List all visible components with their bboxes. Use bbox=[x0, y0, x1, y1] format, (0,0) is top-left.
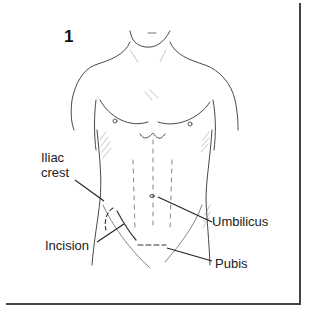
label-iliac-crest: Iliac crest bbox=[41, 150, 69, 180]
label-iliac-crest-line2: crest bbox=[41, 165, 69, 180]
leader-iliac-crest bbox=[75, 180, 104, 201]
leader-incision bbox=[97, 224, 124, 242]
label-umbilicus: Umbilicus bbox=[212, 214, 268, 229]
label-iliac-crest-line1: Iliac bbox=[41, 150, 69, 165]
label-incision: Incision bbox=[45, 238, 89, 253]
leader-umbilicus bbox=[158, 197, 212, 222]
label-pubis: Pubis bbox=[215, 256, 248, 271]
leader-pubis bbox=[167, 248, 212, 261]
